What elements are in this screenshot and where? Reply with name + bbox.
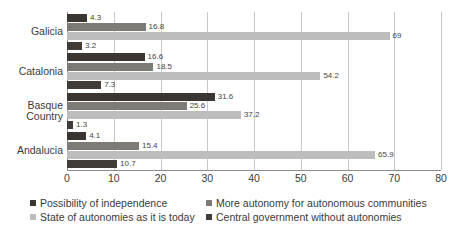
x-tick-label: 40 [248, 172, 260, 184]
legend-label: State of autonomies as it is today [40, 211, 195, 223]
bar-value-label: 16.8 [146, 23, 165, 31]
bar-row: 3.2 [67, 42, 441, 50]
bar-row: 10.7 [67, 160, 441, 168]
legend-swatch-icon [30, 214, 36, 220]
bar[interactable] [67, 72, 320, 80]
bar-row: 31.6 [67, 93, 441, 101]
category-label: Andalucia [17, 145, 63, 156]
bar[interactable] [67, 81, 101, 89]
plot-area: 4.316.8693.216.618.554.27.331.625.637.21… [67, 12, 441, 170]
bar-value-label: 37.2 [241, 111, 260, 119]
bar-chart: 4.316.8693.216.618.554.27.331.625.637.21… [0, 0, 456, 234]
x-tick-label: 10 [108, 172, 120, 184]
bar[interactable] [67, 142, 139, 150]
bar[interactable] [67, 160, 117, 168]
bar-row: 18.5 [67, 63, 441, 71]
bar-row: 37.2 [67, 111, 441, 119]
bar-row: 15.4 [67, 142, 441, 150]
bar-value-label: 1.3 [73, 121, 87, 129]
x-tick-label: 0 [64, 172, 70, 184]
category-label: Catalonia [19, 66, 63, 77]
legend-swatch-icon [30, 200, 36, 206]
legend-item[interactable]: Possibility of independence [30, 197, 198, 209]
bar[interactable] [67, 111, 241, 119]
bar[interactable] [67, 93, 215, 101]
bar-group: 16.618.554.27.3 [67, 52, 441, 92]
bar-value-label: 7.3 [101, 81, 115, 89]
bar[interactable] [67, 23, 146, 31]
bar-value-label: 54.2 [320, 72, 339, 80]
bar-row: 65.9 [67, 151, 441, 159]
bar[interactable] [67, 151, 375, 159]
bar-value-label: 16.6 [145, 53, 164, 61]
legend-item[interactable]: Central government without autonomies [206, 211, 430, 223]
legend-label: More autonomy for autonomous communities [216, 197, 427, 209]
legend-item[interactable]: State of autonomies as it is today [30, 211, 198, 223]
bar-row: 4.3 [67, 14, 441, 22]
chart-legend: Possibility of independenceMore autonomy… [30, 196, 430, 224]
bar-row: 16.6 [67, 53, 441, 61]
x-tick-label: 60 [342, 172, 354, 184]
bar-value-label: 10.7 [117, 160, 136, 168]
bar[interactable] [67, 102, 187, 110]
legend-swatch-icon [206, 214, 212, 220]
legend-label: Central government without autonomies [216, 211, 402, 223]
bar-row: 54.2 [67, 72, 441, 80]
legend-item[interactable]: More autonomy for autonomous communities [206, 197, 430, 209]
bar-group: 31.625.637.21.3 [67, 91, 441, 131]
bar-row: 25.6 [67, 102, 441, 110]
category-label: Galicia [31, 26, 63, 37]
bar-value-label: 18.5 [153, 63, 172, 71]
bar-row: 1.3 [67, 121, 441, 129]
bar[interactable] [67, 42, 82, 50]
bar-value-label: 31.6 [215, 93, 234, 101]
x-axis-tick-labels: 01020304050607080 [67, 172, 441, 188]
bar-value-label: 25.6 [187, 102, 206, 110]
x-axis-line [67, 170, 441, 171]
x-tick-label: 70 [388, 172, 400, 184]
x-tick-label: 20 [155, 172, 167, 184]
legend-swatch-icon [206, 200, 212, 206]
bar-row: 7.3 [67, 81, 441, 89]
gridline [441, 12, 442, 170]
bar[interactable] [67, 14, 87, 22]
bar[interactable] [67, 53, 145, 61]
bar-row: 16.8 [67, 23, 441, 31]
bar-group: 4.316.8693.2 [67, 12, 441, 52]
bar-value-label: 69 [390, 32, 402, 40]
legend-label: Possibility of independence [40, 197, 167, 209]
bar[interactable] [67, 63, 153, 71]
bar-row: 4.1 [67, 132, 441, 140]
x-tick-label: 50 [295, 172, 307, 184]
x-tick-label: 80 [435, 172, 447, 184]
bar-group: 4.115.465.910.7 [67, 131, 441, 171]
bar[interactable] [67, 132, 86, 140]
bar-row: 69 [67, 32, 441, 40]
bar-value-label: 3.2 [82, 42, 96, 50]
bar[interactable] [67, 32, 390, 40]
bar-value-label: 4.1 [86, 132, 100, 140]
bar-value-label: 15.4 [139, 142, 158, 150]
bar-value-label: 65.9 [375, 151, 394, 159]
category-label: Basque Country [26, 100, 63, 122]
x-tick-label: 30 [201, 172, 213, 184]
bar-value-label: 4.3 [87, 14, 101, 22]
